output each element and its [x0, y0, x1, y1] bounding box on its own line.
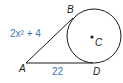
tangent-segment-ab — [26, 18, 73, 63]
label-ab-length: 2x² + 4 — [10, 28, 41, 39]
geometry-diagram: 2x² + 4 22 A B C D — [0, 0, 123, 83]
circle-c — [67, 9, 121, 63]
center-point-c — [90, 35, 93, 38]
point-label-d: D — [93, 66, 100, 77]
point-label-c: C — [95, 37, 103, 48]
label-ad-length: 22 — [52, 66, 64, 77]
point-label-a: A — [18, 63, 26, 74]
point-label-b: B — [67, 4, 74, 15]
